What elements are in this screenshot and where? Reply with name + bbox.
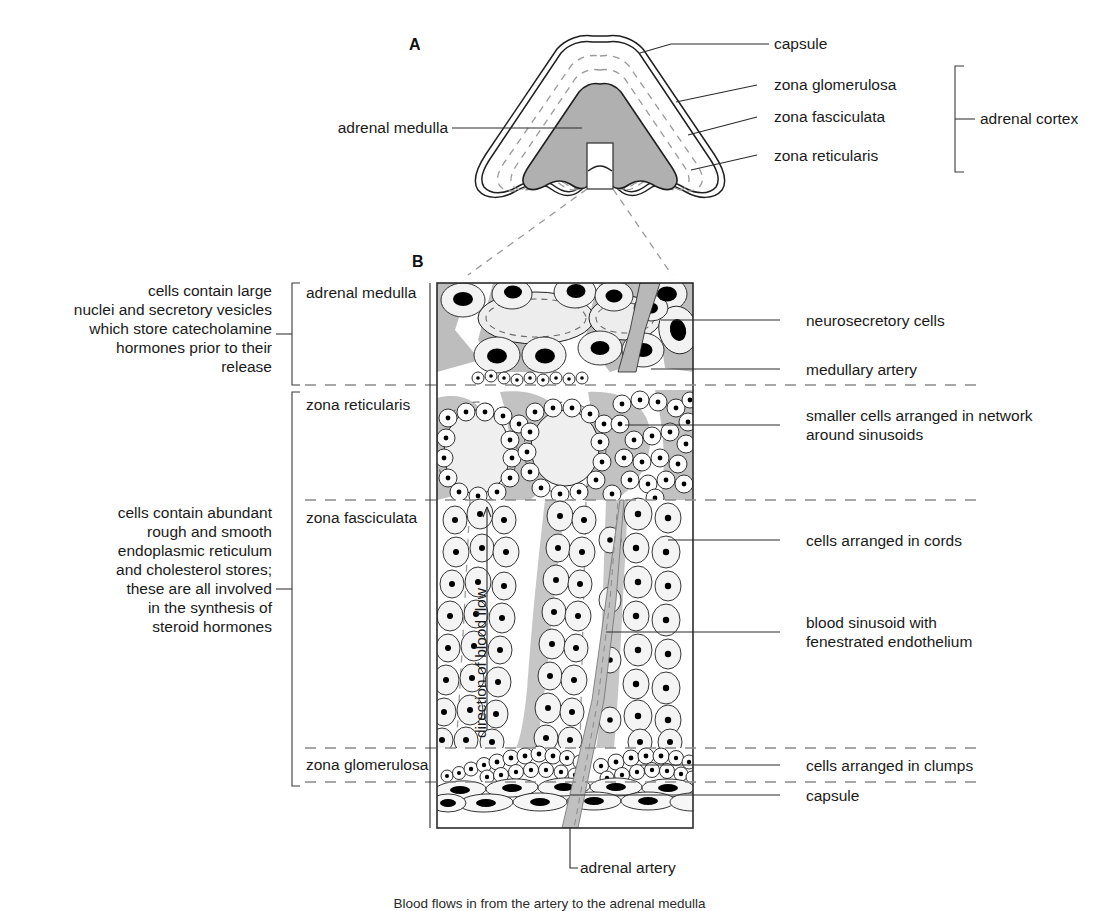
annotation-neurosecretory-cells: neurosecretory cells xyxy=(806,311,945,330)
zone-label-zona-reticularis: zona reticularis xyxy=(306,395,410,414)
annotation-cortex-description: cells contain abundant rough and smooth … xyxy=(50,503,272,636)
annotation-medulla-description: cells contain large nuclei and secretory… xyxy=(60,281,272,376)
annotation-blood-sinusoid: blood sinusoid with fenestrated endothel… xyxy=(806,613,972,651)
label-adrenal-artery: adrenal artery xyxy=(580,858,676,877)
annotation-capsule: capsule xyxy=(806,786,859,805)
annotation-cells-in-clumps: cells arranged in clumps xyxy=(806,756,973,775)
blood-flow-direction-label: direction of blood flow xyxy=(471,523,490,738)
annotation-smaller-cells-network: smaller cells arranged in network around… xyxy=(806,406,1033,444)
figure-caption: Blood flows in from the artery to the ad… xyxy=(0,896,1099,911)
zone-label-zona-fasciculata: zona fasciculata xyxy=(306,508,417,527)
zone-label-zona-glomerulosa: zona glomerulosa xyxy=(306,755,428,774)
zone-label-adrenal-medulla: adrenal medulla xyxy=(306,283,416,302)
annotation-cells-in-cords: cells arranged in cords xyxy=(806,531,962,550)
annotation-medullary-artery: medullary artery xyxy=(806,360,917,379)
